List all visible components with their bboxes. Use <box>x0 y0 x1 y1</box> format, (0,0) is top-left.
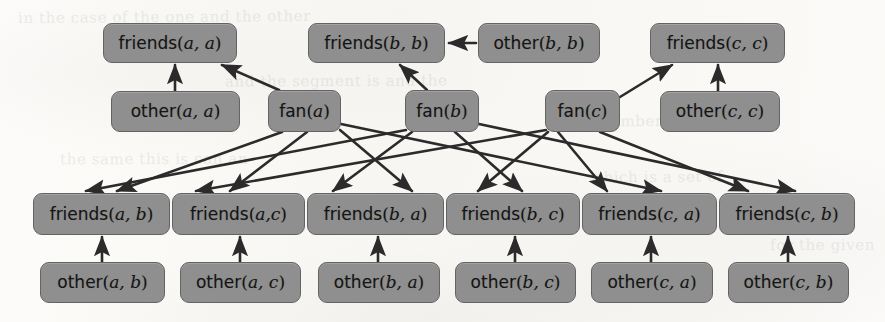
node-arguments: b, c <box>523 274 554 291</box>
node-friends_ca[interactable]: friends(c, a) <box>582 193 717 235</box>
node-predicate: other <box>334 274 379 291</box>
node-paren-close: ) <box>461 103 468 120</box>
node-paren-close: ) <box>578 35 585 52</box>
node-paren-open: ( <box>657 206 664 223</box>
node-arguments: a, a <box>184 35 215 52</box>
node-other_ba[interactable]: other(b, a) <box>318 262 440 303</box>
node-other_ac[interactable]: other(a, c) <box>180 262 301 303</box>
node-predicate: friends <box>461 206 520 223</box>
node-fan_a[interactable]: fan(a) <box>268 90 341 132</box>
node-other_aa[interactable]: other(a, a) <box>111 91 240 132</box>
node-friends_cb[interactable]: friends(c, b) <box>719 193 855 235</box>
node-other_cc[interactable]: other(c, c) <box>660 91 780 132</box>
node-paren-close: ) <box>418 274 425 291</box>
node-predicate: friends <box>598 206 657 223</box>
node-predicate: fan <box>416 103 443 120</box>
node-predicate: friends <box>190 206 249 223</box>
node-arguments: c, b <box>801 206 832 223</box>
node-paren-open: ( <box>382 206 389 223</box>
node-paren-open: ( <box>725 35 732 52</box>
node-paren-close: ) <box>690 274 697 291</box>
node-paren-close: ) <box>758 103 765 120</box>
node-friends_aa[interactable]: friends(a, a) <box>103 23 237 63</box>
node-arguments: a, a <box>183 103 214 120</box>
node-paren-open: ( <box>379 274 386 291</box>
node-predicate: other <box>744 274 789 291</box>
node-paren-open: ( <box>794 206 801 223</box>
node-arguments: b, a <box>386 274 418 291</box>
node-predicate: fan <box>279 103 306 120</box>
node-paren-close: ) <box>554 274 561 291</box>
node-arguments: a, c <box>248 274 278 291</box>
node-arguments: b, c <box>527 206 558 223</box>
node-arguments: b <box>450 103 461 120</box>
node-arguments: c, c <box>732 35 762 52</box>
node-predicate: friends <box>324 206 383 223</box>
edge-fan_a-to-friends_ab <box>117 132 282 191</box>
node-fan_c[interactable]: fan(c) <box>545 90 620 132</box>
node-other_bb[interactable]: other(b, b) <box>478 23 600 63</box>
node-paren-close: ) <box>215 35 222 52</box>
node-arguments: a, b <box>109 274 141 291</box>
node-paren-open: ( <box>108 206 115 223</box>
node-paren-close: ) <box>827 274 834 291</box>
edge-fan_b-to-friends_ca <box>479 124 795 191</box>
node-other_ab[interactable]: other(a, b) <box>40 262 165 303</box>
node-predicate: other <box>676 103 721 120</box>
node-paren-close: ) <box>832 206 839 223</box>
node-paren-close: ) <box>214 103 221 120</box>
node-paren-open: ( <box>383 35 390 52</box>
node-other_bc[interactable]: other(b, c) <box>455 262 576 303</box>
node-predicate: other <box>57 274 102 291</box>
edge-fan_c-to-friends_ca <box>558 132 607 191</box>
node-paren-close: ) <box>421 206 428 223</box>
node-arguments: c, c <box>728 103 758 120</box>
node-paren-open: ( <box>241 274 248 291</box>
node-paren-open: ( <box>789 274 796 291</box>
node-fan_b[interactable]: fan(b) <box>405 90 479 132</box>
node-paren-close: ) <box>601 103 608 120</box>
node-predicate: other <box>196 274 241 291</box>
node-arguments: c, a <box>659 274 689 291</box>
node-other_ca[interactable]: other(c, a) <box>591 262 713 303</box>
node-paren-close: ) <box>141 274 148 291</box>
node-predicate: friends <box>50 206 109 223</box>
node-predicate: other <box>607 274 652 291</box>
node-paren-open: ( <box>721 103 728 120</box>
node-friends_bb[interactable]: friends(b, b) <box>308 23 445 63</box>
node-friends_ac[interactable]: friends(a,c) <box>172 193 305 235</box>
edge-fan_b-to-friends_bb <box>400 65 427 90</box>
node-predicate: other <box>131 103 176 120</box>
node-other_cb[interactable]: other(c, b) <box>728 262 849 303</box>
node-predicate: fan <box>558 103 585 120</box>
node-paren-close: ) <box>280 206 287 223</box>
node-paren-close: ) <box>558 206 565 223</box>
node-predicate: other <box>471 274 516 291</box>
edge-fan_a-to-friends_aa <box>222 65 279 90</box>
node-paren-close: ) <box>694 206 701 223</box>
node-friends_bc[interactable]: friends(b, c) <box>446 193 580 235</box>
node-paren-close: ) <box>422 35 429 52</box>
node-arguments: a <box>313 103 323 120</box>
node-arguments: a, b <box>115 206 147 223</box>
node-paren-close: ) <box>762 35 769 52</box>
node-arguments: c, b <box>796 274 827 291</box>
node-friends_ab[interactable]: friends(a, b) <box>33 193 170 235</box>
node-friends_ba[interactable]: friends(b, a) <box>307 193 444 235</box>
node-arguments: b, b <box>545 35 578 52</box>
node-predicate: friends <box>667 35 726 52</box>
node-arguments: c, a <box>664 206 694 223</box>
node-friends_cc[interactable]: friends(c, c) <box>650 23 785 63</box>
node-arguments: b, a <box>389 206 421 223</box>
node-paren-open: ( <box>176 103 183 120</box>
node-paren-open: ( <box>177 35 184 52</box>
node-predicate: friends <box>119 35 178 52</box>
node-arguments: b, b <box>390 35 423 52</box>
node-predicate: other <box>493 35 538 52</box>
node-paren-open: ( <box>520 206 527 223</box>
node-arguments: c <box>591 103 601 120</box>
node-paren-close: ) <box>147 206 154 223</box>
node-paren-close: ) <box>278 274 285 291</box>
node-paren-close: ) <box>323 103 330 120</box>
node-paren-open: ( <box>516 274 523 291</box>
